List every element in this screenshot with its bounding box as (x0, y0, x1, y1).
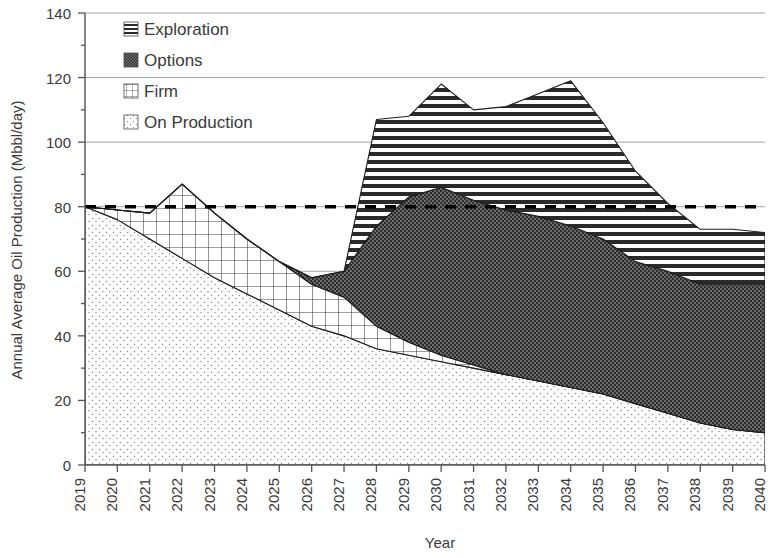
x-tick-label-2036: 2036 (621, 478, 638, 511)
legend-swatch-grid (124, 84, 138, 98)
y-tick-label-120: 120 (46, 70, 71, 87)
legend-label: On Production (144, 113, 253, 132)
x-tick-label-2035: 2035 (589, 478, 606, 511)
x-tick-label-2031: 2031 (460, 478, 477, 511)
x-tick-label-2027: 2027 (330, 478, 347, 511)
oil-production-stacked-area-chart: 020406080100120140 201920202021202220232… (0, 0, 780, 558)
x-tick-label-2030: 2030 (427, 478, 444, 511)
x-tick-label-2034: 2034 (557, 478, 574, 511)
legend-swatch-horizontal-lines (124, 22, 138, 36)
y-tick-label-40: 40 (54, 328, 71, 345)
x-tick-label-2039: 2039 (719, 478, 736, 511)
y-tick-label-0: 0 (63, 457, 71, 474)
x-tick-label-2021: 2021 (136, 478, 153, 511)
x-tick-label-2032: 2032 (492, 478, 509, 511)
x-tick-label-2040: 2040 (751, 478, 768, 511)
x-tick-label-2037: 2037 (654, 478, 671, 511)
x-tick-label-2019: 2019 (71, 478, 88, 511)
legend-item-options[interactable]: Options (124, 51, 203, 70)
x-tick-label-2022: 2022 (168, 478, 185, 511)
x-tick-label-2023: 2023 (201, 478, 218, 511)
x-tick-label-2020: 2020 (103, 478, 120, 511)
x-tick-label-2026: 2026 (298, 478, 315, 511)
x-tick-label-2024: 2024 (233, 478, 250, 511)
x-tick-label-2038: 2038 (686, 478, 703, 511)
y-tick-label-60: 60 (54, 263, 71, 280)
y-tick-label-100: 100 (46, 134, 71, 151)
legend-swatch-dots (124, 115, 138, 129)
x-axis-title: Year (425, 534, 455, 551)
y-axis-title: Annual Average Oil Production (Mbbl/day) (8, 100, 25, 379)
x-tick-label-2025: 2025 (265, 478, 282, 511)
legend-label: Firm (144, 82, 178, 101)
legend-item-on-production[interactable]: On Production (124, 113, 253, 132)
x-tick-label-2033: 2033 (524, 478, 541, 511)
legend-swatch-dense-dark (124, 53, 138, 67)
legend-label: Options (144, 51, 203, 70)
legend-label: Exploration (144, 20, 229, 39)
y-tick-label-140: 140 (46, 5, 71, 22)
x-tick-label-2028: 2028 (362, 478, 379, 511)
y-tick-label-20: 20 (54, 392, 71, 409)
x-tick-label-2029: 2029 (395, 478, 412, 511)
legend-item-firm[interactable]: Firm (124, 82, 178, 101)
y-tick-label-80: 80 (54, 199, 71, 216)
